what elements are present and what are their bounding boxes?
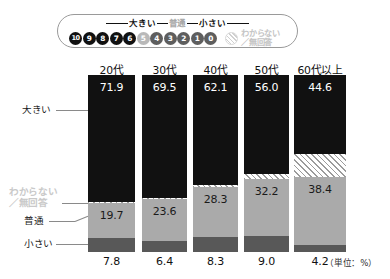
hatch-swatch-icon [225,32,238,45]
segment-big-30代: 69.5 [142,75,187,198]
bottom-value-50代: 9.0 [244,255,289,269]
segment-mid-value-20代: 19.7 [100,203,124,221]
segment-small-20代 [88,238,135,252]
segment-small-40代 [193,237,238,252]
legend-na-label: わからない ／無回答 [241,29,280,48]
segment-mid-value-40代: 28.3 [204,187,228,205]
segment-small-30代 [142,241,187,252]
segment-small-60代以上 [294,245,346,252]
scale-rule-3 [187,23,198,24]
scale-rule-1 [106,23,128,24]
bar-50代[interactable]: 56.032.2 [244,75,289,252]
scale-rule-4 [227,23,249,24]
legend-dot-2: 2 [177,32,190,45]
bottom-value-20代: 7.8 [88,255,135,269]
leader-big [56,110,88,111]
legend-dot-9: 9 [83,32,96,45]
column-header-3: 50代 [244,61,289,75]
segment-big-value-20代: 71.9 [100,75,124,93]
segment-mid-60代以上: 38.4 [294,177,346,245]
legend-dot-10: 10 [69,32,82,45]
segment-mid-20代: 19.7 [88,203,135,238]
segment-big-value-50代: 56.0 [255,75,279,93]
legend-dot-7: 7 [110,32,123,45]
column-header-0: 20代 [88,61,135,75]
segment-small-50代 [244,236,289,252]
bottom-value-40代: 8.3 [193,255,238,269]
bar-30代[interactable]: 69.523.6 [142,75,187,252]
segment-big-20代: 71.9 [88,75,135,202]
legend-dot-6: 6 [123,32,136,45]
segment-mid-50代: 32.2 [244,179,289,236]
column-header-1: 30代 [142,61,187,75]
legend-scale-mid-label: 普通 [168,19,188,28]
legend-dot-1: 1 [191,32,204,45]
legend-dot-0: 0 [204,32,217,45]
segment-big-value-30代: 69.5 [153,75,177,93]
column-header-2: 40代 [193,61,238,75]
segment-big-50代: 56.0 [244,75,289,174]
segment-big-40代: 62.1 [193,75,238,185]
segment-big-value-60代以上: 44.6 [308,75,332,93]
leader-na [62,203,88,204]
segment-mid-value-60代以上: 38.4 [308,177,332,195]
segment-mid-30代: 23.6 [142,199,187,241]
legend-dot-3: 3 [164,32,177,45]
scale-rule-2 [157,23,168,24]
side-label-mid: 普通 [24,215,43,226]
legend-pill: 大きい 普通 小さい 109876543210 わからない ／無回答 [57,14,298,48]
leader-small [56,244,88,245]
legend-scale-right-label: 小さい [198,19,226,28]
segment-big-60代以上: 44.6 [294,75,346,154]
legend-dot-4: 4 [150,32,163,45]
legend-dot-5: 5 [137,32,150,45]
segment-mid-40代: 28.3 [193,187,238,237]
unit-note: （単位：%） [325,256,377,268]
leader-mid-diagonal [75,216,88,222]
segment-big-value-40代: 62.1 [204,75,228,93]
column-header-4: 60代以上 [294,61,346,75]
legend-na-item: わからない ／無回答 [225,29,280,48]
segment-mid-value-30代: 23.6 [153,199,177,217]
leader-mid [49,221,75,222]
side-label-big: 大きい [22,104,51,115]
side-label-na: わからない ／無回答 [9,186,58,208]
chart-root: 大きい 普通 小さい 109876543210 わからない ／無回答 20代30… [0,0,390,279]
legend-scale-left-label: 大きい [128,19,156,28]
bottom-value-30代: 6.4 [142,255,187,269]
bar-60代以上[interactable]: 44.638.4 [294,75,346,252]
legend-dot-8: 8 [96,32,109,45]
side-label-small: 小さい [24,238,53,249]
segment-na-60代以上 [294,154,346,177]
legend-dots-row: 109876543210 [69,31,217,45]
bar-20代[interactable]: 71.919.7 [88,75,135,252]
bar-40代[interactable]: 62.128.3 [193,75,238,252]
segment-mid-value-50代: 32.2 [255,179,279,197]
